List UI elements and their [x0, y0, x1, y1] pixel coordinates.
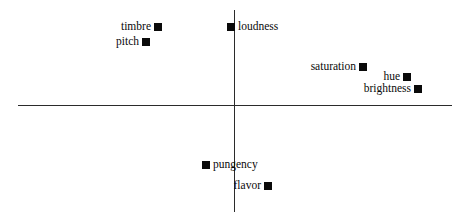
marker-hue: [403, 73, 411, 81]
marker-saturation: [359, 63, 367, 71]
marker-loudness: [227, 23, 235, 31]
scatter-plot-figure: timbrepitchloudnesssaturationhuebrightne…: [0, 0, 465, 221]
point-label-saturation: saturation: [311, 61, 356, 73]
marker-brightness: [414, 85, 422, 93]
marker-flavor: [264, 182, 272, 190]
point-label-pitch: pitch: [116, 36, 139, 48]
x-axis-line: [18, 105, 452, 106]
point-label-loudness: loudness: [238, 21, 278, 33]
point-label-hue: hue: [383, 71, 400, 83]
marker-timbre: [154, 23, 162, 31]
marker-pitch: [142, 38, 150, 46]
point-label-timbre: timbre: [121, 21, 151, 33]
point-label-pungency: pungency: [213, 159, 258, 171]
point-label-brightness: brightness: [364, 83, 411, 95]
point-label-flavor: flavor: [234, 180, 261, 192]
marker-pungency: [202, 161, 210, 169]
